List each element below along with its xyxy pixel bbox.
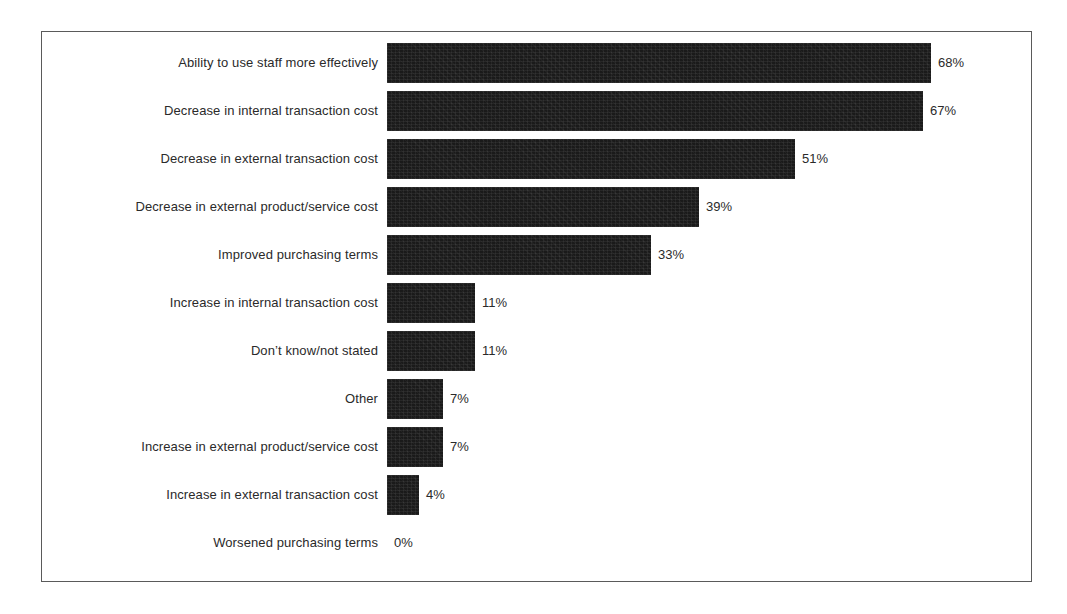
value-label: 68% xyxy=(938,55,964,71)
bar-track: 7% xyxy=(387,423,469,471)
category-label: Increase in external transaction cost xyxy=(48,487,378,503)
bar-row: Increase in external transaction cost4% xyxy=(42,471,1031,519)
category-label: Decrease in external product/service cos… xyxy=(48,199,378,215)
category-label: Increase in external product/service cos… xyxy=(48,439,378,455)
bar-track: 33% xyxy=(387,231,684,279)
bar xyxy=(387,331,475,371)
category-label: Ability to use staff more effectively xyxy=(48,55,378,71)
bar xyxy=(387,379,443,419)
bar xyxy=(387,91,923,131)
chart-figure: Ability to use staff more effectively68%… xyxy=(41,31,1032,582)
bar xyxy=(387,235,651,275)
value-label: 7% xyxy=(450,439,469,455)
bar-track: 0% xyxy=(387,519,413,567)
bar-track: 11% xyxy=(387,279,507,327)
bar-row: Increase in internal transaction cost11% xyxy=(42,279,1031,327)
bar-track: 39% xyxy=(387,183,732,231)
category-label: Increase in internal transaction cost xyxy=(48,295,378,311)
value-label: 33% xyxy=(658,247,684,263)
value-label: 4% xyxy=(426,487,445,503)
bar xyxy=(387,187,699,227)
category-label: Decrease in external transaction cost xyxy=(48,151,378,167)
plot-area: Ability to use staff more effectively68%… xyxy=(42,32,1031,581)
category-label: Decrease in internal transaction cost xyxy=(48,103,378,119)
bar-track: 11% xyxy=(387,327,507,375)
bar xyxy=(387,475,419,515)
bar-row: Don’t know/not stated11% xyxy=(42,327,1031,375)
bar-row: Decrease in external transaction cost51% xyxy=(42,135,1031,183)
value-label: 67% xyxy=(930,103,956,119)
value-label: 39% xyxy=(706,199,732,215)
bar-row: Increase in external product/service cos… xyxy=(42,423,1031,471)
value-label: 11% xyxy=(482,295,507,311)
bar-track: 51% xyxy=(387,135,828,183)
bar-track: 68% xyxy=(387,39,964,87)
value-label: 7% xyxy=(450,391,469,407)
bar xyxy=(387,283,475,323)
bar-row: Worsened purchasing terms0% xyxy=(42,519,1031,567)
bar-row: Decrease in internal transaction cost67% xyxy=(42,87,1031,135)
value-label: 51% xyxy=(802,151,828,167)
category-label: Improved purchasing terms xyxy=(48,247,378,263)
bar xyxy=(387,43,931,83)
category-label: Other xyxy=(48,391,378,407)
category-label: Don’t know/not stated xyxy=(48,343,378,359)
value-label: 0% xyxy=(394,535,413,551)
bar-row: Ability to use staff more effectively68% xyxy=(42,39,1031,87)
bar-row: Decrease in external product/service cos… xyxy=(42,183,1031,231)
bar-track: 4% xyxy=(387,471,445,519)
bar-track: 7% xyxy=(387,375,469,423)
bar-row: Other7% xyxy=(42,375,1031,423)
value-label: 11% xyxy=(482,343,507,359)
bar-row: Improved purchasing terms33% xyxy=(42,231,1031,279)
bar xyxy=(387,427,443,467)
bar-track: 67% xyxy=(387,87,956,135)
category-label: Worsened purchasing terms xyxy=(48,535,378,551)
bar xyxy=(387,139,795,179)
